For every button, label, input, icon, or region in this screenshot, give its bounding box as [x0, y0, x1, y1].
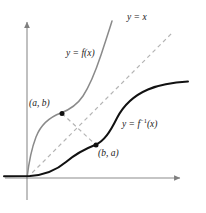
- inverse-curve-label-suffix: (x): [147, 119, 158, 129]
- inverse-curve-label: y = f−1(x): [122, 120, 158, 130]
- reflection-connector-line: [62, 114, 96, 146]
- inverse-function-figure: y = x y = f(x) y = f−1(x) (a, b) (b, a): [0, 0, 206, 213]
- point-label-ba: (b, a): [98, 149, 119, 159]
- inverse-curve-label-exponent: −1: [140, 117, 147, 124]
- inverse-curve-label-prefix: y = f: [122, 119, 140, 129]
- function-curve-label: y = f(x): [66, 49, 95, 59]
- point-marker-ba: [94, 143, 99, 148]
- identity-line-label: y = x: [127, 13, 147, 23]
- point-label-ab: (a, b): [29, 99, 50, 109]
- inverse-curve-f-inverse: [4, 82, 188, 177]
- point-marker-ab: [60, 111, 65, 116]
